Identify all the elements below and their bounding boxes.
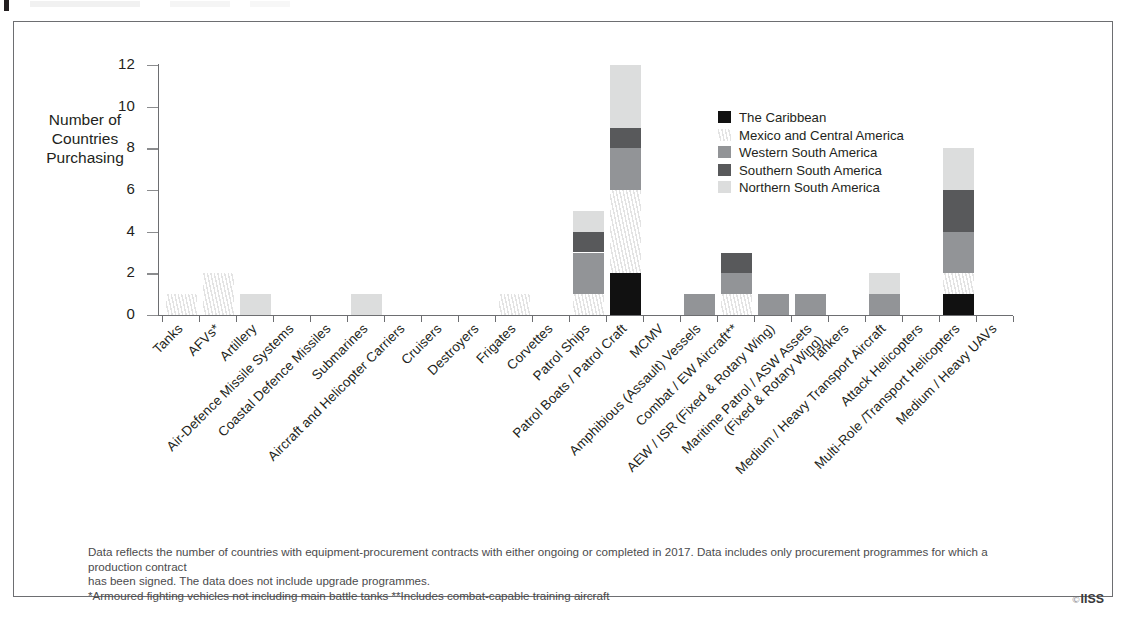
x-tick [643, 316, 644, 322]
y-tick-label: 2 [101, 263, 135, 280]
y-tick-label: 10 [101, 97, 135, 114]
x-tick [310, 316, 311, 322]
bar [721, 253, 752, 316]
bar-segment [351, 294, 382, 315]
bar-segment [721, 253, 752, 274]
y-tick-label: 0 [101, 305, 135, 322]
bar [240, 294, 271, 315]
bar-segment [943, 294, 974, 315]
x-tick [976, 316, 977, 322]
y-tick [147, 315, 158, 316]
legend-swatch [718, 146, 731, 158]
x-tick [458, 316, 459, 322]
x-tick [791, 316, 792, 322]
footnote: Data reflects the number of countries wi… [88, 545, 1038, 603]
header-smudge [30, 1, 140, 7]
bar-segment [943, 190, 974, 232]
bar-segment [166, 294, 197, 315]
header-smudge-2 [170, 1, 230, 7]
y-tick-label: 4 [101, 222, 135, 239]
x-tick [421, 316, 422, 322]
bar [351, 294, 382, 315]
legend-label: Southern South America [739, 163, 882, 178]
bar-segment [795, 294, 826, 315]
bar-segment [610, 273, 641, 315]
x-tick [902, 316, 903, 322]
bar-segment [573, 211, 604, 232]
copyright: ©IISS [1073, 592, 1104, 606]
legend-label: Western South America [739, 145, 877, 160]
bar-segment [758, 294, 789, 315]
copyright-label: IISS [1081, 592, 1104, 606]
x-tick [865, 316, 866, 322]
y-tick [147, 232, 158, 233]
bar-segment [869, 294, 900, 315]
bar-segment [203, 273, 234, 315]
y-tick-label: 6 [101, 180, 135, 197]
legend-swatch [718, 164, 731, 176]
bar-segment [240, 294, 271, 315]
bar-segment [869, 273, 900, 294]
legend-label: Northern South America [739, 180, 880, 195]
x-tick [532, 316, 533, 322]
x-tick [162, 316, 163, 322]
x-tick [939, 316, 940, 322]
x-tick [273, 316, 274, 322]
footnote-line-3: *Armoured fighting vehicles not includin… [88, 589, 1038, 604]
x-tick [606, 316, 607, 322]
x-axis-line [157, 315, 1013, 316]
bar-segment [943, 148, 974, 190]
bar-segment [610, 190, 641, 273]
x-tick [717, 316, 718, 322]
x-tick [569, 316, 570, 322]
bar [610, 65, 641, 315]
chart-figure: Number of Countries Purchasing 024681012… [0, 0, 1126, 620]
bar [499, 294, 530, 315]
bar-segment [573, 232, 604, 253]
footnote-line-1: Data reflects the number of countries wi… [88, 545, 1038, 574]
copyright-symbol: © [1073, 594, 1080, 605]
bar-segment [943, 232, 974, 274]
bar-segment [684, 294, 715, 315]
x-tick [199, 316, 200, 322]
bar [758, 294, 789, 315]
y-tick [147, 148, 158, 149]
page-marker-icon [4, 0, 9, 11]
x-tick [347, 316, 348, 322]
legend-swatch [718, 111, 731, 123]
y-tick [147, 65, 158, 66]
x-tick [1013, 316, 1014, 322]
y-tick-label: 12 [101, 55, 135, 72]
bar-segment [573, 253, 604, 295]
bar-segment [499, 294, 530, 315]
bar [203, 273, 234, 315]
header-smudge-3 [250, 1, 290, 7]
bar [943, 148, 974, 315]
bar-segment [573, 294, 604, 315]
bar-segment [721, 294, 752, 315]
y-tick [147, 107, 158, 108]
bar-segment [721, 273, 752, 294]
x-tick [236, 316, 237, 322]
x-tick [680, 316, 681, 322]
bar [795, 294, 826, 315]
legend-swatch [718, 129, 731, 141]
legend-label: Mexico and Central America [739, 128, 904, 143]
x-tick [384, 316, 385, 322]
legend-label: The Caribbean [739, 110, 826, 125]
bar-segment [610, 148, 641, 190]
bar [684, 294, 715, 315]
bar-segment [943, 273, 974, 294]
bar-segment [610, 128, 641, 149]
y-tick [147, 273, 158, 274]
x-tick [828, 316, 829, 322]
x-tick [754, 316, 755, 322]
legend-swatch [718, 181, 731, 193]
bar [166, 294, 197, 315]
y-tick-label: 8 [101, 138, 135, 155]
bar [573, 211, 604, 315]
y-tick [147, 190, 158, 191]
bar [869, 273, 900, 315]
x-tick [495, 316, 496, 322]
bar-segment [610, 65, 641, 128]
